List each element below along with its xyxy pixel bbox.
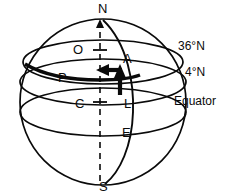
label-point-p: P [58,71,67,84]
globe-figure: N S O A P C L E 36°N 4°N Equator [0,0,229,196]
label-point-l: L [124,97,131,110]
label-point-e: E [122,126,131,139]
label-equator: Equator [174,95,216,107]
label-point-o: O [73,43,83,56]
label-south-pole: S [99,180,108,193]
label-latitude-4n: 4°N [185,66,205,78]
label-latitude-36n: 36°N [178,40,205,52]
label-point-a: A [123,52,132,65]
label-north-pole: N [98,2,107,15]
label-point-c: C [75,97,84,110]
